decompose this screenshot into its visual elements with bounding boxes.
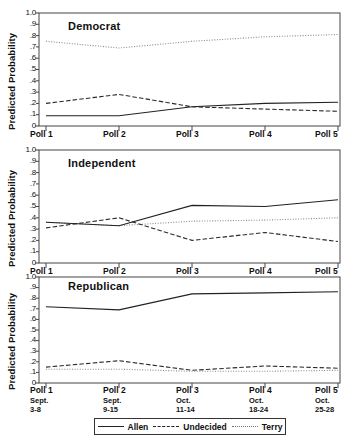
x-tick-democrat-poll2: Poll 2 xyxy=(103,130,126,140)
x-tick-democrat-poll1: Poll 1 xyxy=(30,130,53,140)
legend-swatch-dotted-icon xyxy=(232,426,258,427)
x-tick-days-poll3: 11-14 xyxy=(176,405,199,415)
plot-area-republican xyxy=(0,272,363,392)
legend-label-terry: Terry xyxy=(262,422,283,432)
series-line-terry-democrat xyxy=(46,35,338,49)
x-tick-label-poll4: Poll 4 xyxy=(249,385,272,395)
x-tick-republican-poll2: Poll 2 Sept. 9-15 xyxy=(103,386,126,415)
legend-item-terry: Terry xyxy=(232,422,283,432)
x-tick-month-poll1: Sept. xyxy=(30,396,53,406)
legend-swatch-solid-icon xyxy=(98,426,124,427)
x-tick-label-poll5: Poll 5 xyxy=(315,385,338,395)
x-tick-days-poll4: 18-24 xyxy=(249,405,272,415)
x-tick-month-poll5: Oct. xyxy=(315,396,338,406)
x-tick-democrat-poll3: Poll 3 xyxy=(176,130,199,140)
x-tick-month-poll3: Oct. xyxy=(176,396,199,406)
legend: Allen Undecided Terry xyxy=(94,418,286,435)
x-tick-republican-poll5: Poll 5 Oct. 25-28 xyxy=(315,386,338,415)
x-tick-republican-poll3: Poll 3 Oct. 11-14 xyxy=(176,386,199,415)
x-tick-democrat-poll4: Poll 4 xyxy=(249,130,272,140)
series-line-terry-republican xyxy=(46,369,338,371)
figure-root: Predicted Probability 1.0 .9 .8 .7 .6 .5… xyxy=(0,0,363,445)
series-line-undecided-republican xyxy=(46,361,338,371)
legend-label-undecided: Undecided xyxy=(183,422,226,432)
x-tick-days-poll2: 9-15 xyxy=(103,405,126,415)
legend-label-allen: Allen xyxy=(128,422,149,432)
legend-swatch-dashed-icon xyxy=(153,426,179,427)
x-tick-label-poll3: Poll 3 xyxy=(176,385,199,395)
plot-area-independent xyxy=(0,145,363,275)
x-tick-label-poll1: Poll 1 xyxy=(30,385,53,395)
legend-item-allen: Allen xyxy=(98,422,149,432)
x-tick-republican-poll1: Poll 1 Sept. 3-8 xyxy=(30,386,53,415)
x-tick-label-poll2: Poll 2 xyxy=(103,385,126,395)
legend-item-undecided: Undecided xyxy=(153,422,226,432)
series-line-allen-democrat xyxy=(46,102,338,116)
x-tick-month-poll4: Oct. xyxy=(249,396,272,406)
x-tick-democrat-poll5: Poll 5 xyxy=(315,130,338,140)
series-line-allen-republican xyxy=(46,292,338,310)
x-tick-days-poll5: 25-28 xyxy=(315,405,338,415)
x-tick-days-poll1: 3-8 xyxy=(30,405,53,415)
x-tick-republican-poll4: Poll 4 Oct. 18-24 xyxy=(249,386,272,415)
plot-area-democrat xyxy=(0,8,363,138)
x-tick-month-poll2: Sept. xyxy=(103,396,126,406)
